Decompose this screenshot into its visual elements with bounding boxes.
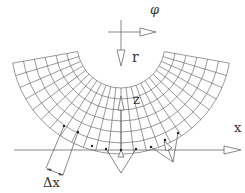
delta-x-arrowhead-left-icon — [47, 169, 51, 171]
mesh-node — [63, 125, 65, 127]
r-arrow-icon — [117, 50, 125, 66]
polar-mesh-diagram — [0, 0, 245, 193]
mesh-node — [164, 139, 166, 141]
z-arrow-icon — [118, 96, 124, 110]
delta-x-label: Δx — [43, 176, 60, 189]
center-triangle — [106, 149, 136, 173]
z-label: z — [133, 93, 140, 106]
x-axis — [14, 146, 241, 154]
mesh-node — [105, 148, 107, 150]
mesh-radial-line — [156, 70, 209, 109]
mesh-radial-line — [159, 66, 216, 99]
mesh-radial-line — [50, 78, 92, 129]
z-axis — [118, 96, 124, 149]
x-arrow-icon — [224, 146, 241, 154]
mesh-radial-line — [149, 78, 191, 129]
r-label: r — [132, 50, 139, 64]
mesh-node — [135, 148, 137, 150]
mesh-node — [150, 146, 152, 148]
delta-x-extension-right — [63, 132, 78, 175]
phi-label: φ — [150, 3, 159, 16]
mesh-node — [91, 145, 93, 147]
mesh-node — [77, 131, 79, 133]
mesh-radial-line — [26, 66, 83, 99]
mesh-radial-line — [33, 70, 86, 109]
mesh-node — [177, 132, 179, 134]
mesh-radial-line — [83, 85, 106, 147]
phi-arrow-icon — [140, 28, 156, 36]
x-label: x — [234, 121, 241, 134]
mesh-node — [120, 149, 122, 151]
